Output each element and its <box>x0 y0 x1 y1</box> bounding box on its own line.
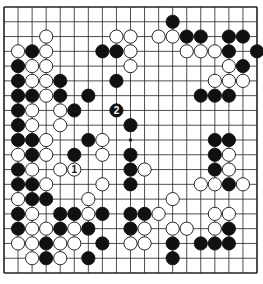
white-stone <box>138 237 151 250</box>
black-stone <box>26 45 39 58</box>
white-stone <box>124 60 137 73</box>
white-stone <box>96 178 109 191</box>
white-stone <box>26 119 39 132</box>
black-stone <box>68 148 81 161</box>
white-stone <box>180 45 193 58</box>
black-stone <box>124 119 137 132</box>
black-stone <box>222 45 235 58</box>
white-stone <box>26 104 39 117</box>
white-stone <box>194 45 207 58</box>
white-stone <box>96 133 109 146</box>
black-stone <box>222 89 235 102</box>
white-stone <box>166 193 179 206</box>
white-stone <box>26 207 39 220</box>
black-stone <box>208 148 221 161</box>
black-stone <box>236 30 249 43</box>
black-stone <box>222 237 235 250</box>
white-stone <box>26 74 39 87</box>
white-stone <box>54 252 67 265</box>
white-stone <box>166 222 179 235</box>
white-stone <box>68 237 81 250</box>
black-stone <box>40 193 53 206</box>
white-stone <box>222 163 235 176</box>
black-stone <box>124 163 137 176</box>
black-stone <box>138 207 151 220</box>
white-stone <box>110 30 123 43</box>
black-stone <box>222 30 235 43</box>
black-stone <box>124 207 137 220</box>
white-stone <box>40 148 53 161</box>
black-stone <box>54 222 67 235</box>
white-stone <box>180 222 193 235</box>
white-stone <box>26 163 39 176</box>
black-stone <box>26 148 39 161</box>
white-stone <box>11 45 24 58</box>
white-stone <box>11 193 24 206</box>
black-stone <box>26 193 39 206</box>
go-board: 21 <box>0 0 263 284</box>
white-stone <box>40 222 53 235</box>
white-stone <box>40 178 53 191</box>
black-stone <box>26 89 39 102</box>
black-stone: 2 <box>110 104 123 117</box>
black-stone <box>166 15 179 28</box>
white-stone <box>236 74 249 87</box>
white-stone <box>208 178 221 191</box>
white-stone <box>236 178 249 191</box>
move-number-label: 1 <box>71 164 77 175</box>
white-stone <box>40 30 53 43</box>
white-stone <box>96 148 109 161</box>
white-stone <box>11 148 24 161</box>
black-stone <box>236 60 249 73</box>
white-stone <box>40 74 53 87</box>
white-stone <box>40 133 53 146</box>
black-stone <box>208 89 221 102</box>
white-stone: 1 <box>68 163 81 176</box>
white-stone <box>152 207 165 220</box>
black-stone <box>54 89 67 102</box>
black-stone <box>82 252 95 265</box>
black-stone <box>110 45 123 58</box>
white-stone <box>222 148 235 161</box>
black-stone <box>26 178 39 191</box>
black-stone <box>222 222 235 235</box>
white-stone <box>54 119 67 132</box>
white-stone <box>124 237 137 250</box>
black-stone <box>166 237 179 250</box>
white-stone <box>68 222 81 235</box>
white-stone <box>26 60 39 73</box>
black-stone <box>11 74 24 87</box>
black-stone <box>11 119 24 132</box>
black-stone <box>68 104 81 117</box>
white-stone <box>166 30 179 43</box>
white-stone <box>26 237 39 250</box>
black-stone <box>11 104 24 117</box>
white-stone <box>208 74 221 87</box>
black-stone <box>40 252 53 265</box>
black-stone <box>82 89 95 102</box>
white-stone <box>40 60 53 73</box>
black-stone <box>222 133 235 146</box>
black-stone <box>180 30 193 43</box>
black-stone <box>166 252 179 265</box>
black-stone <box>222 178 235 191</box>
black-stone <box>82 133 95 146</box>
white-stone <box>222 74 235 87</box>
white-stone <box>26 252 39 265</box>
black-stone <box>124 222 137 235</box>
black-stone <box>208 237 221 250</box>
black-stone <box>194 237 207 250</box>
black-stone <box>208 133 221 146</box>
white-stone <box>124 45 137 58</box>
white-stone <box>194 178 207 191</box>
white-stone <box>54 237 67 250</box>
black-stone <box>96 237 109 250</box>
white-stone <box>152 30 165 43</box>
black-stone <box>40 237 53 250</box>
black-stone <box>110 74 123 87</box>
white-stone <box>26 222 39 235</box>
black-stone <box>11 60 24 73</box>
white-stone <box>222 60 235 73</box>
star-points <box>129 138 133 142</box>
black-stone <box>124 148 137 161</box>
